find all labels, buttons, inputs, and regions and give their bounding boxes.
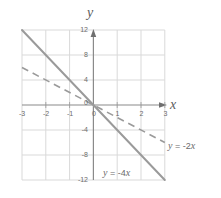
x-tick-label--2: -2 xyxy=(38,110,54,117)
x-axis-arrowhead-icon xyxy=(159,102,167,108)
x-tick-label--1: -1 xyxy=(62,110,78,117)
x-tick-label-0: 0 xyxy=(88,110,100,117)
y-tick-label--4: -4 xyxy=(72,126,88,133)
y-axis-label: y xyxy=(87,6,93,20)
x-tick-label-1: 1 xyxy=(110,110,125,117)
x-tick-label-3: 3 xyxy=(158,110,173,117)
y-tick-label-12: 12 xyxy=(72,26,88,33)
equation-label-y-equals-minus-4x: y = -4x xyxy=(103,168,130,178)
equation-rhs-x-4: x xyxy=(126,167,130,178)
y-tick-label--8: -8 xyxy=(72,151,88,158)
equation-label-y-equals-minus-2x: y = -2x xyxy=(168,141,195,151)
y-tick-label-4: 4 xyxy=(72,76,88,83)
y-tick-label--12: -12 xyxy=(72,176,88,183)
coordinate-plane-figure: y x 12 8 4 0 -4 -8 -12 -3 -2 -1 0 1 2 3 … xyxy=(0,0,221,198)
x-tick-label--3: -3 xyxy=(14,110,30,117)
equation-op-2: = -2 xyxy=(172,141,190,151)
y-tick-label-8: 8 xyxy=(72,51,88,58)
equation-rhs-x-2: x xyxy=(191,140,195,151)
equation-op-4: = -4 xyxy=(107,168,125,178)
x-tick-label-2: 2 xyxy=(134,110,149,117)
y-tick-label-0: 0 xyxy=(72,99,88,106)
